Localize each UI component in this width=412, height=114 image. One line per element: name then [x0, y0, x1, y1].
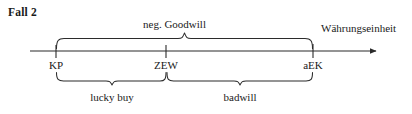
axis-unit-label: Währungseinheit: [321, 23, 396, 34]
tick-label-aek: aEK: [303, 60, 323, 71]
tick-label-kp: KP: [49, 60, 63, 71]
brace-label-badwill: badwill: [224, 92, 257, 103]
page-title: Fall 2: [8, 7, 37, 19]
tick-label-zew: ZEW: [154, 60, 178, 71]
brace-label-neg-goodwill: neg. Goodwill: [143, 19, 206, 30]
brace-bottom-lucky-buy: [57, 73, 167, 86]
brace-bottom-badwill: [167, 73, 313, 86]
number-line-diagram: [0, 0, 412, 114]
brace-top-neg-goodwill: [57, 33, 313, 49]
diagram-canvas: Fall 2 neg. Goodwill Währungseinheit KP …: [0, 0, 412, 114]
brace-label-lucky-buy: lucky buy: [90, 92, 134, 103]
